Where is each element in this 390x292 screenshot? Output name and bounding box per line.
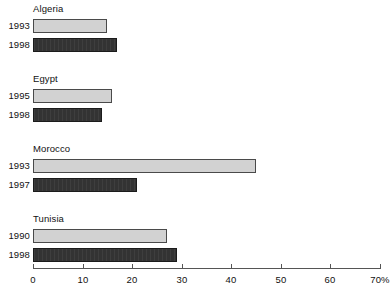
x-axis-tick-label: 50 xyxy=(276,274,287,285)
group-label: Morocco xyxy=(33,143,70,154)
bar-chart: Algeria19931998Egypt19951998Morocco19931… xyxy=(0,0,390,292)
bar-year-label: 1998 xyxy=(0,37,30,53)
bar-morocco-1997 xyxy=(33,178,137,192)
bar-row: 1995 xyxy=(0,88,390,104)
x-axis-tick-label: 60 xyxy=(325,274,336,285)
bar-year-label: 1997 xyxy=(0,177,30,193)
bar-row: 1998 xyxy=(0,107,390,123)
bar-row: 1990 xyxy=(0,228,390,244)
x-axis-tick-label: 70% xyxy=(370,274,389,285)
bar-algeria-1993 xyxy=(33,19,107,33)
bar-group-egypt: Egypt19951998 xyxy=(0,73,390,126)
plot-area: Algeria19931998Egypt19951998Morocco19931… xyxy=(0,0,390,292)
bar-year-label: 1998 xyxy=(0,107,30,123)
group-label: Egypt xyxy=(33,73,58,84)
x-axis-tick xyxy=(33,264,34,269)
bar-row: 1998 xyxy=(0,37,390,53)
x-axis-tick xyxy=(380,264,381,269)
bar-algeria-1998 xyxy=(33,38,117,52)
x-axis-tick xyxy=(132,264,133,269)
bar-year-label: 1990 xyxy=(0,228,30,244)
x-axis-line xyxy=(33,268,380,269)
bar-tunisia-1998 xyxy=(33,248,177,262)
bar-group-tunisia: Tunisia19901998 xyxy=(0,213,390,266)
x-axis-tick-label: 20 xyxy=(127,274,138,285)
bar-group-algeria: Algeria19931998 xyxy=(0,3,390,56)
bar-row: 1997 xyxy=(0,177,390,193)
bar-row: 1998 xyxy=(0,247,390,263)
x-axis-tick-label: 0 xyxy=(30,274,35,285)
bar-egypt-1998 xyxy=(33,108,102,122)
x-axis-tick xyxy=(83,264,84,269)
x-axis-tick xyxy=(330,264,331,269)
bar-row: 1993 xyxy=(0,18,390,34)
bar-year-label: 1993 xyxy=(0,158,30,174)
x-axis-tick-label: 40 xyxy=(226,274,237,285)
group-label: Tunisia xyxy=(33,213,64,224)
bar-year-label: 1993 xyxy=(0,18,30,34)
bar-group-morocco: Morocco19931997 xyxy=(0,143,390,196)
x-axis-tick xyxy=(231,264,232,269)
bar-row: 1993 xyxy=(0,158,390,174)
x-axis-tick xyxy=(182,264,183,269)
bar-year-label: 1998 xyxy=(0,247,30,263)
x-axis-tick-label: 10 xyxy=(78,274,89,285)
x-axis-tick xyxy=(281,264,282,269)
bar-year-label: 1995 xyxy=(0,88,30,104)
bar-morocco-1993 xyxy=(33,159,256,173)
bar-tunisia-1990 xyxy=(33,229,167,243)
group-label: Algeria xyxy=(33,3,63,14)
bar-egypt-1995 xyxy=(33,89,112,103)
x-axis-tick-label: 30 xyxy=(177,274,188,285)
